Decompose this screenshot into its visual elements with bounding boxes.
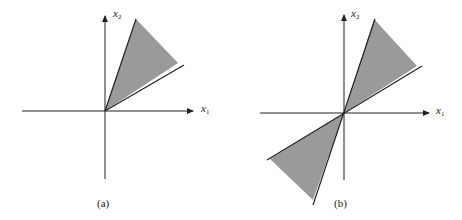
x2-label: x2 (350, 7, 360, 21)
x2-label: x2 (112, 7, 122, 21)
shaded-cone-region-upper (344, 19, 417, 113)
shaded-cone-region-lower (270, 113, 344, 200)
x1-label: x1 (435, 104, 445, 118)
panel-a: x1 x2 (a) (22, 7, 210, 210)
caption-b: (b) (334, 197, 347, 210)
panel-b: x1 x2 (b) (260, 7, 445, 210)
x1-label: x1 (200, 102, 210, 116)
shaded-cone-region (105, 19, 178, 111)
caption-a: (a) (97, 197, 110, 210)
figure-canvas: x1 x2 (a) x1 x2 (b) (0, 0, 462, 220)
